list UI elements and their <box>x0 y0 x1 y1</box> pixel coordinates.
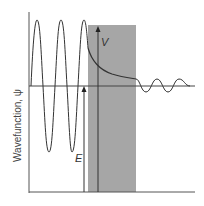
energy-arrowhead <box>82 86 87 92</box>
energy-label: E <box>75 152 82 164</box>
potential-label: V <box>101 36 108 48</box>
tunneling-diagram: Wavefunction, ψ V E <box>0 0 204 206</box>
diagram-canvas <box>0 0 204 206</box>
potential-barrier <box>88 25 136 192</box>
y-axis-label: Wavefunction, ψ <box>12 71 23 181</box>
